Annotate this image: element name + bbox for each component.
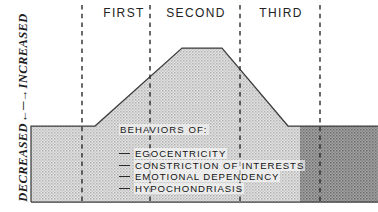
chart-container: DECREASED←─→INCREASED FIRST SECOND THIRD… [0, 0, 378, 212]
y-axis-label-low: DECREASED [16, 123, 30, 202]
legend-dash-icon [119, 176, 130, 177]
y-axis-label-high: INCREASED [16, 13, 30, 88]
phase-label-first: FIRST [96, 6, 152, 20]
y-axis-arrow-icon: ←─→ [15, 89, 29, 124]
legend-title: BEHAVIORS OF: [119, 124, 209, 135]
legend-item: EGOCENTRICITY [119, 148, 319, 160]
legend-item-list: EGOCENTRICITY CONSTRICTION OF INTERESTS … [119, 148, 319, 194]
legend-item-label: EGOCENTRICITY [134, 148, 227, 159]
legend-item: EMOTIONAL DEPENDENCY [119, 171, 319, 183]
legend: BEHAVIORS OF: EGOCENTRICITY CONSTRICTION… [119, 119, 319, 194]
legend-item: CONSTRICTION OF INTERESTS [119, 160, 319, 172]
legend-dash-icon [119, 165, 130, 166]
y-axis-label: DECREASED←─→INCREASED [16, 8, 31, 208]
legend-item-label: HYPOCHONDRIASIS [134, 183, 244, 194]
legend-item: HYPOCHONDRIASIS [119, 183, 319, 195]
phase-label-second: SECOND [158, 6, 234, 20]
legend-dash-icon [119, 188, 130, 189]
legend-dash-icon [119, 153, 130, 154]
legend-item-label: CONSTRICTION OF INTERESTS [134, 160, 305, 171]
phase-label-third: THIRD [248, 6, 314, 20]
legend-item-label: EMOTIONAL DEPENDENCY [134, 171, 280, 182]
